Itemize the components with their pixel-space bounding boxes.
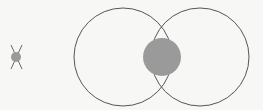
crossed-dot-icon xyxy=(11,45,22,69)
venn-diagram xyxy=(0,0,263,110)
intersection-disc xyxy=(143,38,181,76)
